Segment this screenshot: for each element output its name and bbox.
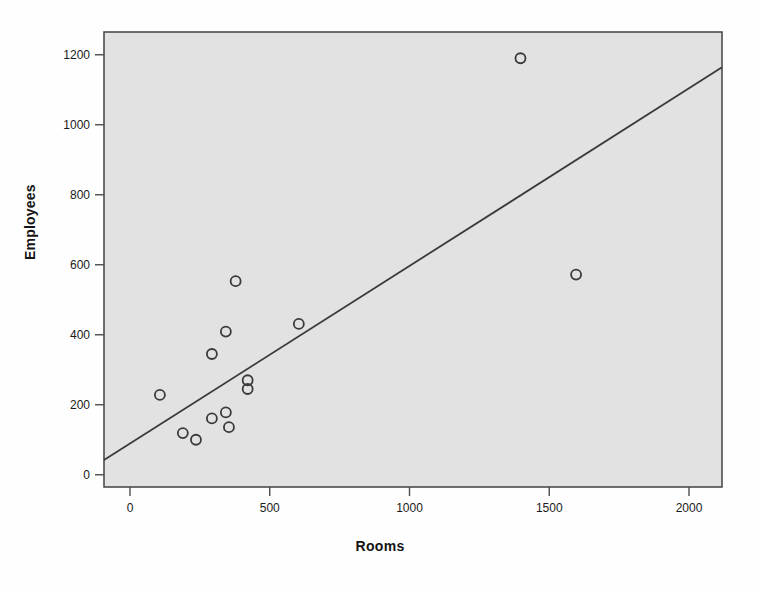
y-tick-label: 0	[83, 468, 90, 482]
plot-area-background	[104, 32, 722, 487]
x-tick-label: 1000	[396, 501, 423, 515]
y-tick-label: 800	[70, 188, 90, 202]
y-tick-label: 200	[70, 398, 90, 412]
scatter-plot-figure: Employees Rooms 020040060080010001200050…	[0, 0, 760, 589]
plot-canvas	[0, 0, 760, 589]
y-axis-ticks	[95, 55, 104, 475]
x-tick-label: 1500	[536, 501, 563, 515]
y-tick-label: 400	[70, 328, 90, 342]
y-tick-label: 1000	[63, 118, 90, 132]
y-tick-label: 1200	[63, 48, 90, 62]
x-axis-ticks	[130, 487, 689, 496]
x-axis-title: Rooms	[0, 538, 760, 554]
y-tick-label: 600	[70, 258, 90, 272]
y-axis-title: Employees	[22, 100, 38, 260]
x-tick-label: 0	[127, 501, 134, 515]
x-tick-label: 2000	[676, 501, 703, 515]
x-tick-label: 500	[260, 501, 280, 515]
